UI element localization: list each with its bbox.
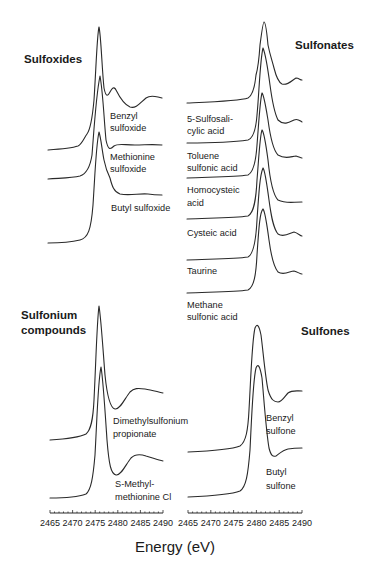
label-methionine-sulfoxide-1: Methionine [110,152,155,162]
x-axis-left: 2465 2470 2475 2480 2485 2490 [40,510,173,528]
label-dmsp-2: propionate [113,429,156,439]
label-benzyl-sulfoxide-2: sulfoxide [110,123,146,133]
label-butyl-sulfoxide: Butyl sulfoxide [111,203,170,213]
curve-methane-sulfonic-acid [187,209,302,293]
tick-label-left-2490: 2490 [153,518,173,528]
tick-label-right-2490: 2490 [292,518,312,528]
label-smm-1: S-Methyl- [115,479,154,489]
tick-label-right-2465: 2465 [178,518,198,528]
label-homocysteic-2: acid [187,198,204,208]
label-cysteic: Cysteic acid [187,228,237,238]
panel-sulfonium: Sulfonium compounds Dimethylsulfonium pr… [21,306,188,502]
panel-sulfonates: Sulfonates 5-Sulfosali- cylic acid Tolue… [187,22,354,322]
label-butyl-sulfone-1: Butyl [266,467,286,477]
x-axis-right: 2465 2470 2475 2480 2485 2490 [178,510,312,528]
label-taurine: Taurine [187,266,217,276]
tick-label-left-2475: 2475 [85,518,105,528]
xanes-figure: Sulfoxides Benzyl sulfoxide Methionine s… [0,0,370,561]
label-butyl-sulfone-2: sulfone [266,481,296,491]
tick-label-right-2485: 2485 [269,518,289,528]
label-benzyl-sulfoxide-1: Benzyl [110,111,138,121]
label-dmsp-1: Dimethylsulfonium [113,416,188,426]
panel-title-sulfonates: Sulfonates [295,39,354,51]
label-methionine-sulfoxide-2: sulfoxide [110,164,146,174]
label-5-sulfosalicylic-1: 5-Sulfosali- [187,114,233,124]
panel-title-sulfonium-1: Sulfonium [21,309,77,321]
label-benzyl-sulfone-2: sulfone [266,426,296,436]
tick-label-right-2480: 2480 [246,518,266,528]
panel-title-sulfones: Sulfones [301,325,350,337]
panel-sulfones: Sulfones Benzyl sulfone Butyl sulfone [188,325,350,497]
curve-taurine [187,168,302,260]
tick-label-left-2480: 2480 [108,518,128,528]
label-5-sulfosalicylic-2: cylic acid [187,126,224,136]
tick-label-left-2485: 2485 [130,518,150,528]
tick-label-right-2475: 2475 [224,518,244,528]
curve-5-sulfosalicylic-acid [187,22,302,103]
tick-label-left-2465: 2465 [40,518,60,528]
label-methane-2: sulfonic acid [187,312,238,322]
label-toluene-1: Toluene [187,151,219,161]
panel-sulfoxides: Sulfoxides Benzyl sulfoxide Methionine s… [24,27,170,243]
label-toluene-2: sulfonic acid [187,163,238,173]
label-benzyl-sulfone-1: Benzyl [266,413,294,423]
label-methane-1: Methane [187,300,223,310]
label-homocysteic-1: Homocysteic [187,185,240,195]
x-axis-label: Energy (eV) [135,538,215,555]
panel-title-sulfoxides: Sulfoxides [24,53,82,65]
tick-label-right-2470: 2470 [201,518,221,528]
panel-title-sulfonium-2: compounds [21,324,86,336]
label-smm-2: methionine Cl [115,492,171,502]
tick-label-left-2470: 2470 [63,518,83,528]
